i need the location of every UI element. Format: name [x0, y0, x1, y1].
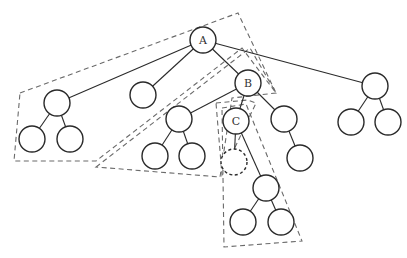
tree-node-c: C: [223, 108, 249, 134]
tree-node: [57, 126, 83, 152]
tree-nodes: ABC: [19, 27, 401, 235]
tree-edges: [32, 40, 388, 222]
tree-node: [268, 209, 294, 235]
dashed-node-circle: [221, 149, 247, 175]
tree-node: [44, 90, 70, 116]
node-label: C: [232, 115, 240, 128]
tree-node: [271, 106, 297, 132]
edge-A-R: [203, 40, 375, 86]
node-circle: [253, 175, 279, 201]
node-circle: [362, 73, 388, 99]
node-label: B: [244, 77, 252, 90]
tree-node: [130, 82, 156, 108]
tree-node: [221, 149, 247, 175]
tree-node: [230, 209, 256, 235]
node-circle: [287, 145, 313, 171]
tree-node-a: A: [190, 27, 216, 53]
tree-node: [142, 143, 168, 169]
node-circle: [268, 209, 294, 235]
node-circle: [57, 126, 83, 152]
node-circle: [271, 106, 297, 132]
node-circle: [179, 143, 205, 169]
node-label: A: [198, 34, 208, 47]
tree-node: [253, 175, 279, 201]
node-circle: [375, 109, 401, 135]
dashed-regions: [14, 13, 302, 247]
tree-node: [338, 109, 364, 135]
tree-node: [179, 143, 205, 169]
node-circle: [166, 106, 192, 132]
tree-node: [19, 126, 45, 152]
tree-node-b: B: [235, 70, 261, 96]
tree-node: [287, 145, 313, 171]
node-circle: [19, 126, 45, 152]
tree-node: [166, 106, 192, 132]
tree-diagram: ABC: [0, 0, 407, 258]
tree-node: [375, 109, 401, 135]
node-circle: [142, 143, 168, 169]
node-circle: [44, 90, 70, 116]
node-circle: [130, 82, 156, 108]
node-circle: [230, 209, 256, 235]
tree-node: [362, 73, 388, 99]
node-circle: [338, 109, 364, 135]
